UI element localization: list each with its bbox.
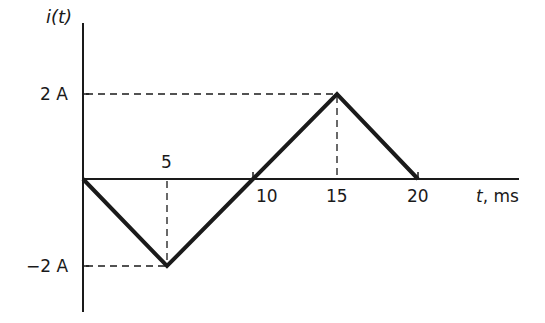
y-tick-label-2A: 2 A xyxy=(40,84,68,104)
current-waveform-chart xyxy=(0,0,545,323)
x-axis-label: t, ms xyxy=(476,186,519,206)
x-axis-unit: , ms xyxy=(483,186,519,206)
x-tick-label-10: 10 xyxy=(256,186,278,206)
x-axis-variable: t xyxy=(476,186,483,206)
y-axis-label: i(t) xyxy=(46,6,72,27)
y-tick-label-neg2A: −2 A xyxy=(26,256,68,276)
x-tick-label-20: 20 xyxy=(407,186,429,206)
x-tick-label-15: 15 xyxy=(326,186,348,206)
x-tick-label-5: 5 xyxy=(161,152,172,172)
